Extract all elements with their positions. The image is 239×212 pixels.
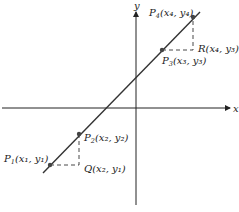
rise-run-triangle-upper (162, 17, 193, 50)
y-axis-label: y (133, 0, 140, 11)
straight-line (43, 12, 200, 173)
label-p4: P4(x₄, y₄) (148, 7, 193, 20)
point-p3 (160, 48, 164, 52)
point-p2 (77, 132, 81, 136)
label-p3: P3(x₃, y₃) (161, 55, 206, 68)
label-r: R(x₄, y₃) (197, 43, 239, 54)
line-slope-diagram: x y P1(x₁, y₁) P2(x₂, y₂) Q(x₂, y₁) P3(x… (0, 0, 239, 212)
label-p2: P2(x₂, y₂) (83, 132, 128, 145)
label-q: Q(x₂, y₁) (84, 163, 126, 174)
label-p1: P1(x₁, y₁) (3, 153, 48, 166)
rise-run-triangle-lower (50, 134, 79, 165)
x-axis-label: x (233, 103, 239, 114)
point-p1 (48, 163, 52, 167)
